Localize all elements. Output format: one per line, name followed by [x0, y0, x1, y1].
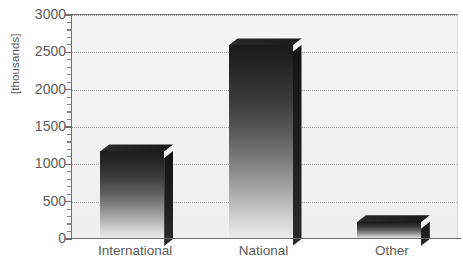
x-axis-tick-label: Other [328, 244, 456, 259]
bar-top-face [229, 38, 302, 45]
y-axis-minor-tick [67, 216, 72, 217]
plot-area [71, 14, 458, 239]
bar-side-face [421, 222, 430, 246]
y-axis-minor-tick [67, 44, 72, 45]
y-axis-tick-label: 500 [24, 194, 66, 208]
bar [229, 45, 293, 239]
y-axis-major-tick [65, 52, 72, 54]
bar-front-face [229, 45, 293, 239]
y-axis-minor-tick [67, 179, 72, 180]
y-axis-major-tick [65, 14, 72, 16]
y-axis-minor-tick [67, 37, 72, 38]
bar-top-face [100, 144, 173, 151]
bar-side-face [164, 151, 173, 246]
bar-front-face [100, 151, 164, 239]
y-axis-major-tick [65, 201, 72, 203]
y-axis-tick-label: 1000 [24, 156, 66, 170]
y-axis-minor-tick [67, 74, 72, 75]
y-axis-minor-tick [67, 194, 72, 195]
y-axis-minor-tick [67, 82, 72, 83]
x-axis-tick-label: International [71, 244, 199, 259]
bar [100, 151, 164, 239]
bar-top-face [357, 215, 430, 222]
y-axis-tick-label: 0 [24, 231, 66, 245]
bar [357, 222, 421, 239]
y-axis-tick-label: 2000 [24, 82, 66, 96]
y-axis-minor-tick [67, 231, 72, 232]
x-axis-line [71, 238, 461, 239]
y-axis-minor-tick [67, 149, 72, 150]
y-axis-minor-tick [67, 209, 72, 210]
y-axis-minor-tick [67, 97, 72, 98]
y-axis-minor-tick [67, 111, 72, 112]
y-axis-minor-tick [67, 141, 72, 142]
y-axis-minor-tick [67, 186, 72, 187]
gridline [72, 15, 457, 16]
y-axis-minor-tick [67, 156, 72, 157]
y-axis-major-tick [65, 126, 72, 128]
y-axis-tick-label: 3000 [24, 7, 66, 21]
y-axis-tick-label: 1500 [24, 119, 66, 133]
y-axis-tick-label: 2500 [24, 44, 66, 58]
y-axis-minor-tick [67, 104, 72, 105]
y-axis-major-tick [65, 164, 72, 166]
y-axis-minor-tick [67, 134, 72, 135]
y-axis-tick-labels: 050010001500200025003000 [24, 0, 66, 267]
y-axis-minor-tick [67, 59, 72, 60]
x-axis-tick-label: National [199, 244, 327, 259]
y-axis-major-tick [65, 89, 72, 91]
y-axis-minor-tick [67, 67, 72, 68]
bar-front-face [357, 222, 421, 239]
y-axis-minor-tick [67, 29, 72, 30]
bar-chart: [thousands] 050010001500200025003000 Int… [0, 0, 463, 267]
y-axis-minor-tick [67, 22, 72, 23]
y-axis-minor-tick [67, 119, 72, 120]
y-axis-minor-tick [67, 171, 72, 172]
y-axis-minor-tick [67, 223, 72, 224]
bar-side-face [293, 45, 302, 246]
